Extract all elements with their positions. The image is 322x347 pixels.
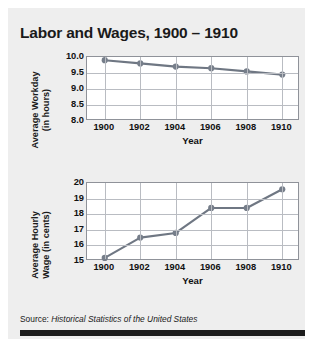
chart-2-y-tick-labels: 151617181920 [56,182,84,260]
y-tick-label: 8.0 [71,115,84,125]
gridline-vertical [105,183,106,259]
chart-average-workday: Average Workday (in hours) 8.08.59.09.51… [8,54,305,178]
y-tick-label: 9.0 [71,83,84,93]
gridline-horizontal [87,214,298,215]
gridline-vertical [211,57,212,119]
y-tick-label: 17 [74,224,84,234]
chart-1-x-axis-label: Year [86,135,299,146]
x-tick-label: 1902 [129,122,150,132]
gridline-horizontal [87,89,298,90]
gridline-vertical [247,183,248,259]
gridline-horizontal [87,199,298,200]
chart-2-x-axis-label: Year [86,275,299,286]
x-tick-label: 1910 [271,122,292,132]
source-note: Source: Historical Statistics of the Uni… [20,314,197,324]
gridline-vertical [140,57,141,119]
gridline-horizontal [87,105,298,106]
gridline-vertical [105,57,106,119]
chart-average-hourly-wage: Average Hourly Wage (in cents) 151617181… [8,180,305,310]
gridline-vertical [247,57,248,119]
y-tick-label: 8.5 [71,99,84,109]
figure-card: Labor and Wages, 1900 – 1910 Average Wor… [8,8,305,339]
gridline-horizontal [87,245,298,246]
source-title: Historical Statistics of the United Stat… [51,314,197,324]
x-tick-label: 1908 [235,122,256,132]
gridline-horizontal [87,73,298,74]
gridline-vertical [282,57,283,119]
bottom-divider [20,330,305,336]
x-tick-label: 1900 [93,122,114,132]
source-prefix: Source: [20,314,51,324]
gridline-vertical [282,183,283,259]
chart-1-plot-area [86,56,299,120]
chart-2-series [87,183,300,261]
x-tick-label: 1908 [235,262,256,272]
y-tick-label: 16 [74,239,84,249]
gridline-vertical [176,183,177,259]
x-tick-label: 1910 [271,262,292,272]
x-tick-label: 1902 [129,262,150,272]
page-title: Labor and Wages, 1900 – 1910 [20,24,238,42]
gridline-vertical [140,183,141,259]
gridline-horizontal [87,230,298,231]
x-tick-label: 1906 [200,262,221,272]
x-tick-label: 1900 [93,262,114,272]
y-tick-label: 9.5 [71,67,84,77]
y-tick-label: 15 [74,255,84,265]
y-tick-label: 19 [74,193,84,203]
y-tick-label: 20 [74,177,84,187]
gridline-vertical [211,183,212,259]
x-tick-label: 1904 [164,262,185,272]
y-tick-label: 18 [74,208,84,218]
chart-2-plot-area [86,182,299,260]
x-tick-label: 1904 [164,122,185,132]
gridline-vertical [176,57,177,119]
figure-page: Labor and Wages, 1900 – 1910 Average Wor… [0,0,322,347]
y-tick-label: 10.0 [66,51,84,61]
chart-1-y-tick-labels: 8.08.59.09.510.0 [56,56,84,120]
x-tick-label: 1906 [200,122,221,132]
